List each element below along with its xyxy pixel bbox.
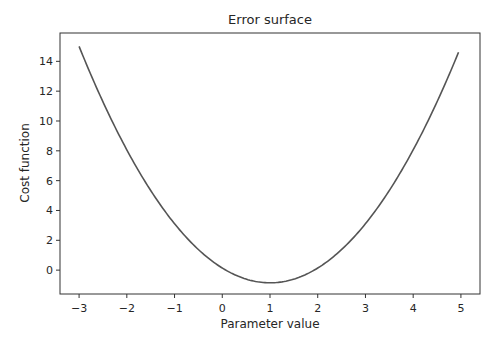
x-tick-label: 0	[219, 302, 226, 315]
axes-frame	[60, 33, 480, 294]
y-tick-label: 8	[46, 145, 53, 158]
y-tick-label: 4	[46, 204, 53, 217]
y-tick-label: 10	[39, 115, 53, 128]
x-tick-label: 5	[457, 302, 464, 315]
plot-area	[79, 46, 458, 282]
y-tick-label: 12	[39, 85, 53, 98]
cost-curve	[79, 46, 458, 282]
x-tick-label: 1	[267, 302, 274, 315]
chart-title: Error surface	[228, 12, 312, 27]
y-axis: 02468101214	[39, 55, 60, 277]
chart: Error surface −3−2−1012345 02468101214 P…	[0, 0, 498, 344]
x-tick-label: −1	[166, 302, 182, 315]
x-axis-label: Parameter value	[220, 317, 319, 331]
y-tick-label: 2	[46, 234, 53, 247]
y-tick-label: 6	[46, 175, 53, 188]
x-tick-label: 3	[362, 302, 369, 315]
x-tick-label: 4	[410, 302, 417, 315]
y-tick-label: 0	[46, 264, 53, 277]
y-tick-label: 14	[39, 55, 53, 68]
x-axis: −3−2−1012345	[71, 294, 464, 315]
x-tick-label: −2	[119, 302, 135, 315]
y-axis-label: Cost function	[18, 123, 32, 203]
x-tick-label: 2	[314, 302, 321, 315]
x-tick-label: −3	[71, 302, 87, 315]
